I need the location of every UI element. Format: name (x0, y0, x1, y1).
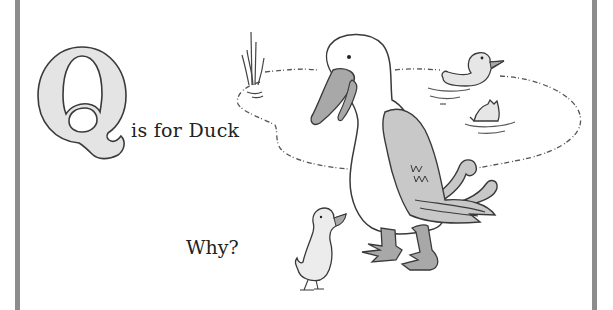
caption-why: Why? (186, 236, 239, 258)
alphabet-page: is for Duck Why? (0, 0, 613, 310)
duckling-icon (295, 208, 346, 290)
caption-is-for-duck: is for Duck (131, 119, 239, 141)
duck-illustration (0, 0, 613, 310)
diving-duck-icon (465, 100, 515, 133)
swimming-duck-icon (428, 53, 504, 104)
letter-q-icon (38, 47, 126, 159)
